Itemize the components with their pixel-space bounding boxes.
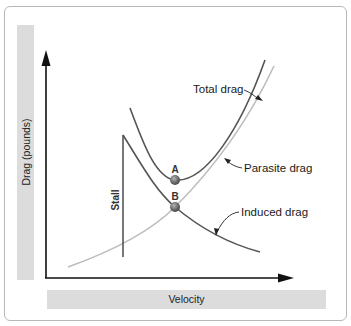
- point-b-marker: [170, 202, 180, 212]
- y-axis-arrow-icon: [42, 50, 51, 66]
- x-axis: [45, 274, 294, 283]
- point-a-marker: [170, 175, 180, 185]
- point-b-label: B: [171, 191, 178, 202]
- induced-drag-curve: [123, 135, 260, 252]
- y-axis: [42, 50, 51, 278]
- total-drag-label: Total drag: [193, 83, 244, 95]
- induced-drag-pointer: [217, 212, 239, 232]
- parasite-drag-label: Parasite drag: [244, 162, 312, 174]
- point-a-label: A: [171, 164, 178, 175]
- drag-chart-plot: A B Stall Total drag Parasite drag Induc…: [0, 0, 351, 326]
- x-axis-arrow-icon: [278, 274, 294, 283]
- stall-label: Stall: [110, 189, 121, 210]
- induced-drag-label: Induced drag: [241, 206, 308, 218]
